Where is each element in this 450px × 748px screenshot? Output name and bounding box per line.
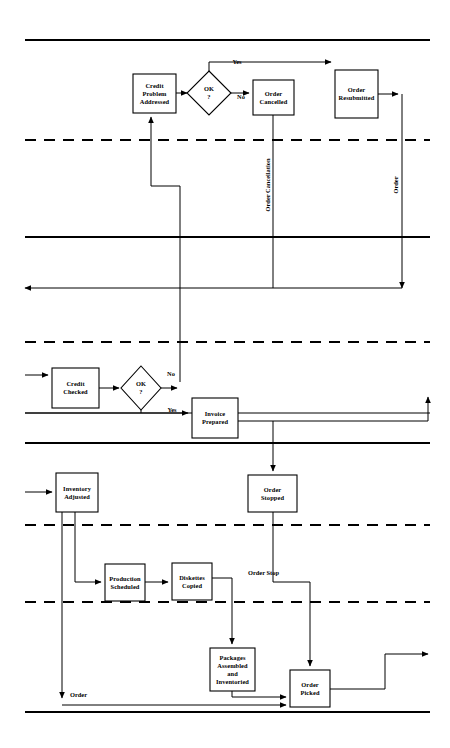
label-order-bottom: Order — [70, 691, 87, 698]
order-picked-label-line-0: Order — [301, 681, 319, 688]
ok-decision-bottom-label-line-1: ? — [139, 388, 142, 395]
ok-decision-bottom-label-line-0: OK — [136, 380, 146, 387]
production-scheduled-label-line-1: Scheduled — [111, 583, 140, 590]
node-order-picked: OrderPicked — [290, 670, 330, 707]
credit-problem-addressed-label-line-0: Credit — [145, 82, 164, 89]
packages-assembled-label-line-0: Packages — [219, 654, 245, 661]
order-resubmitted-label-line-1: Resubmitted — [339, 94, 375, 101]
flowchart-diagram: CreditProblemAddressedOK?OrderCancelledO… — [0, 0, 450, 748]
edge-ok-yes-to-resubmitted — [209, 62, 331, 71]
inventory-adjusted-label-line-1: Adjusted — [64, 493, 90, 500]
order-stopped-label-line-0: Order — [264, 486, 282, 493]
label-yes-top: Yes — [232, 58, 242, 65]
edge-inventory-to-production — [75, 512, 101, 582]
label-no-bottom: No — [167, 370, 175, 377]
invoice-prepared-label-line-1: Prepared — [202, 418, 228, 425]
diskettes-copied-label-line-1: Copied — [182, 582, 202, 589]
label-yes-bottom: Yes — [167, 406, 177, 413]
node-ok-decision-bottom: OK? — [121, 366, 161, 410]
node-diskettes-copied: DiskettesCopied — [172, 563, 212, 600]
node-invoice-prepared: InvoicePrepared — [192, 398, 238, 438]
edge-invoice-right-up — [238, 397, 428, 421]
production-scheduled-label-line-0: Production — [109, 575, 141, 582]
packages-assembled-label-line-2: and — [227, 670, 238, 677]
invoice-prepared-label-line-0: Invoice — [205, 410, 226, 417]
order-stopped-label-line-1: Stopped — [261, 494, 284, 501]
order-cancelled-label-line-1: Cancelled — [260, 98, 288, 105]
packages-assembled-label-line-3: Inventoried — [216, 678, 249, 685]
flowchart-canvas: CreditProblemAddressedOK?OrderCancelledO… — [0, 0, 450, 748]
node-order-cancelled: OrderCancelled — [253, 80, 294, 115]
node-order-resubmitted: OrderResubmitted — [335, 70, 378, 118]
edge-packages-to-picked — [232, 691, 286, 697]
diskettes-copied-label-line-0: Diskettes — [179, 574, 205, 581]
packages-assembled-label-line-1: Assembled — [217, 662, 248, 669]
node-order-stopped: OrderStopped — [248, 475, 297, 512]
credit-problem-addressed-label-line-1: Problem — [142, 90, 167, 97]
node-production-scheduled: ProductionScheduled — [105, 564, 145, 601]
order-picked-label-line-1: Picked — [300, 689, 319, 696]
edge-picked-out-right — [330, 654, 428, 689]
label-order-cancellation: Order Cancellation — [264, 158, 271, 211]
credit-problem-addressed-label-line-2: Addressed — [140, 98, 170, 105]
order-resubmitted-label-line-0: Order — [348, 86, 366, 93]
node-packages-assembled: PackagesAssembledandInventoried — [210, 648, 255, 691]
edge-diskettes-to-packages — [212, 578, 232, 644]
node-inventory-adjusted: InventoryAdjusted — [56, 473, 98, 512]
ok-decision-top-label-line-1: ? — [207, 93, 210, 100]
order-cancelled-label-line-0: Order — [265, 90, 283, 97]
label-order-stop: Order Stop — [248, 569, 279, 576]
node-credit-checked: CreditChecked — [52, 368, 99, 408]
ok-decision-top-label-line-0: OK — [204, 85, 214, 92]
node-credit-problem-addressed: CreditProblemAddressed — [133, 74, 176, 113]
edge-stopped-down — [273, 512, 310, 666]
label-no-top: No — [237, 93, 245, 100]
inventory-adjusted-label-line-0: Inventory — [63, 485, 92, 492]
credit-checked-label-line-0: Credit — [66, 380, 85, 387]
node-ok-decision-top: OK? — [187, 71, 231, 115]
label-order-vertical: Order — [392, 176, 399, 193]
credit-checked-label-line-1: Checked — [63, 388, 88, 395]
